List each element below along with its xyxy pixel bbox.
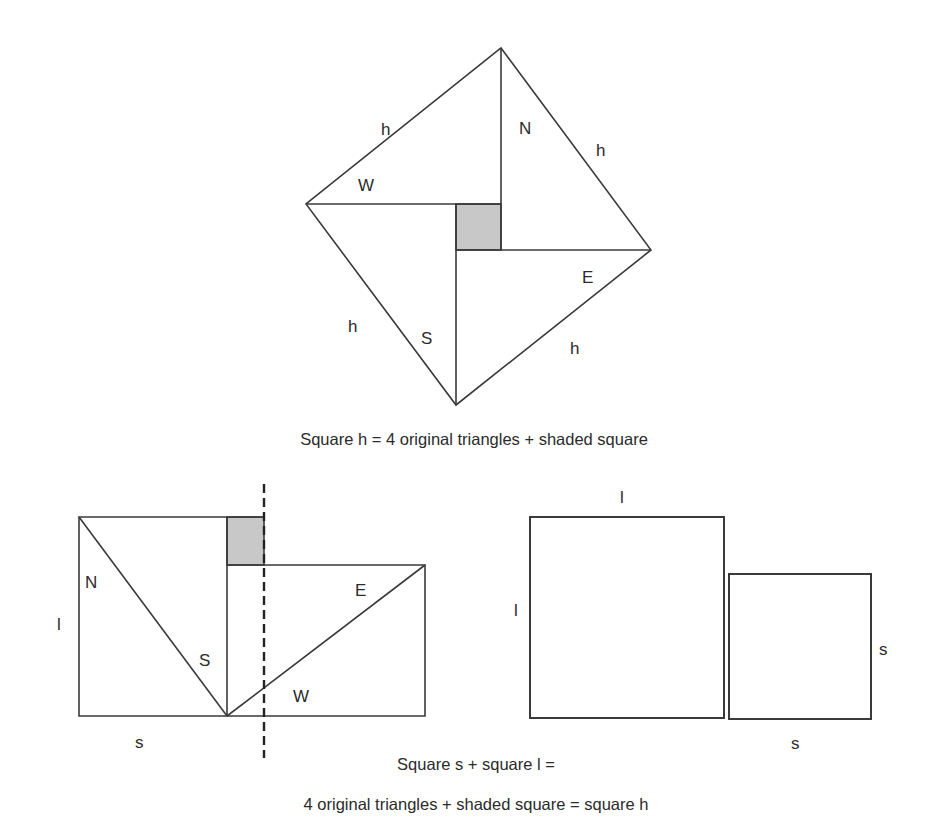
label-S-top: S	[421, 330, 432, 347]
shaded-square-top	[456, 204, 501, 250]
label-N-top: N	[519, 120, 531, 137]
square-l	[530, 517, 724, 718]
label-W-top: W	[358, 177, 374, 194]
label-h-top-right: h	[596, 142, 605, 159]
bottom-left-figure	[79, 484, 425, 758]
top-figure	[306, 48, 651, 405]
label-l-top-square: l	[620, 489, 624, 506]
diagram-svg	[0, 0, 946, 837]
hypotenuse-E	[227, 565, 425, 716]
label-W-bottom: W	[293, 688, 309, 705]
label-E-bottom: E	[355, 582, 366, 599]
square-s	[729, 574, 871, 719]
label-h-bottom-left: h	[348, 318, 357, 335]
caption-bottom-line1: Square s + square l =	[397, 756, 555, 773]
label-S-bottom: S	[199, 652, 210, 669]
label-l-left: l	[57, 616, 61, 633]
label-h-bottom-right: h	[570, 340, 579, 357]
hypotenuse-N	[79, 517, 227, 716]
bottom-right-figure	[530, 517, 871, 719]
caption-bottom-line2: 4 original triangles + shaded square = s…	[304, 796, 649, 813]
label-E-top: E	[582, 269, 593, 286]
label-s-right-square: s	[879, 641, 888, 658]
caption-top: Square h = 4 original triangles + shaded…	[300, 431, 648, 448]
label-s-bottom-square: s	[791, 735, 800, 752]
label-s-bottom: s	[135, 734, 144, 751]
label-N-bottom: N	[85, 574, 97, 591]
label-h-top-left: h	[381, 121, 390, 138]
diagram-canvas: h h h h N W E S Square h = 4 original tr…	[0, 0, 946, 837]
label-l-left-square: l	[514, 602, 518, 619]
shaded-square-bottom	[227, 517, 264, 565]
